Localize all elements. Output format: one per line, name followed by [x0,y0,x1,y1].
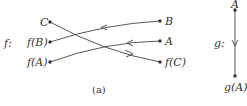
node-label-gA: g(A) [224,81,247,94]
node-dot-gA [233,74,236,77]
node-label-fB: f(B) [26,36,48,49]
caption-a: (a) [92,84,106,95]
node-dot-C [48,20,51,23]
mapping-diagram: f: C f(B) f(A) B A f(C) (a) g: A g(A) [0,0,247,106]
node-dot-fC [158,60,161,63]
node-label-B: B [164,15,173,28]
g-map-label: g: [214,37,225,50]
node-label-fC: f(C) [164,56,186,69]
node-label-A: A [164,35,173,48]
f-map-label: f: [3,37,12,50]
edge-B-to-fB [50,21,160,42]
node-label-C: C [40,16,49,29]
node-dot-fA [48,60,51,63]
node-dot-fB [48,40,51,43]
node-dot-B [158,19,161,22]
node-dot-top-A [233,8,236,11]
node-dot-A [158,39,161,42]
node-label-fA: f(A) [26,56,48,69]
